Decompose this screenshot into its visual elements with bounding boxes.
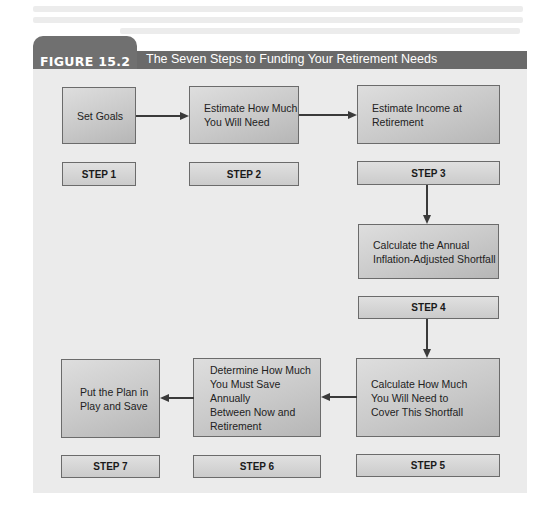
step-4-box: Calculate the Annual Inflation-Adjusted … — [358, 224, 499, 279]
faded-body-text-line — [33, 17, 523, 23]
step-2-text: Estimate How Much You Will Need — [190, 101, 297, 129]
step-1-box: Set Goals — [62, 87, 136, 144]
step-2-box: Estimate How Much You Will Need — [189, 86, 299, 144]
step-7-box: Put the Plan in Play and Save — [61, 359, 160, 438]
arrow-left-icon — [321, 391, 357, 403]
step-4-label: STEP 4 — [358, 296, 499, 319]
step-3-label: STEP 3 — [357, 161, 500, 185]
arrow-down-icon — [421, 319, 433, 359]
step-7-label: STEP 7 — [61, 455, 160, 478]
step-6-text: Determine How Much You Must Save Annuall… — [194, 363, 320, 433]
step-5-label: STEP 5 — [356, 454, 500, 477]
arrow-down-icon — [421, 185, 433, 225]
step-6-label: STEP 6 — [193, 455, 321, 478]
step-2-label: STEP 2 — [189, 162, 299, 186]
faded-body-text-line — [120, 28, 520, 34]
step-7-text: Put the Plan in Play and Save — [62, 385, 148, 413]
step-5-text: Calculate How Much You Will Need to Cove… — [357, 377, 467, 419]
step-3-text: Estimate Income at Retirement — [358, 101, 462, 129]
step-3-box: Estimate Income at Retirement — [357, 85, 500, 144]
step-1-text: Set Goals — [63, 109, 123, 123]
arrow-right-icon — [136, 110, 190, 122]
figure-label: FIGURE 15.2 — [40, 54, 130, 69]
arrow-right-icon — [299, 109, 358, 121]
figure-title: The Seven Steps to Funding Your Retireme… — [146, 52, 437, 66]
step-1-label: STEP 1 — [62, 162, 136, 186]
arrow-left-icon — [160, 392, 194, 404]
step-6-box: Determine How Much You Must Save Annuall… — [193, 358, 321, 437]
step-5-box: Calculate How Much You Will Need to Cove… — [356, 358, 500, 437]
faded-body-text-line — [33, 6, 523, 12]
step-4-text: Calculate the Annual Inflation-Adjusted … — [359, 238, 496, 266]
